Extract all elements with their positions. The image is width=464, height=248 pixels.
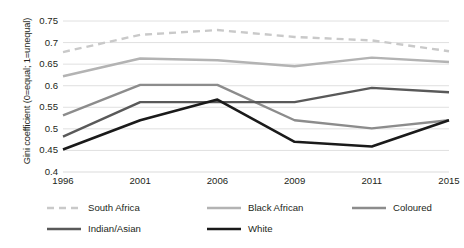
legend-label: White: [248, 224, 273, 234]
x-tick-label: 2006: [187, 176, 247, 186]
chart-legend: South AfricaBlack AfricanColoured Indian…: [47, 198, 447, 242]
series-line-south-africa: [63, 30, 449, 52]
x-tick-label: 1996: [33, 176, 93, 186]
legend-row: South AfricaBlack AfricanColoured: [47, 198, 447, 218]
plot-svg: [63, 21, 449, 172]
series-line-black-african: [63, 58, 449, 77]
legend-item-coloured[interactable]: Coloured: [352, 198, 432, 218]
x-tick-label: 2011: [342, 176, 402, 186]
y-tick-label: 0.6: [2, 81, 58, 91]
legend-item-south-africa[interactable]: South Africa: [47, 198, 140, 218]
series-lines: [63, 30, 449, 150]
legend-item-indian-asian[interactable]: Indian/Asian: [47, 219, 141, 239]
y-tick-label: 0.75: [2, 16, 58, 26]
legend-swatch-icon: [207, 223, 241, 235]
legend-item-white[interactable]: White: [207, 219, 273, 239]
legend-swatch-icon: [207, 202, 241, 214]
legend-label: Black African: [248, 203, 303, 213]
x-tick-label: 2015: [419, 176, 464, 186]
legend-label: South Africa: [88, 203, 140, 213]
y-tick-label: 0.5: [2, 124, 58, 134]
legend-swatch-icon: [352, 202, 386, 214]
y-tick-label: 0.45: [2, 145, 58, 155]
legend-row: Indian/AsianWhite: [47, 219, 447, 239]
series-line-indian-asian: [63, 88, 449, 137]
y-tick-label: 0.55: [2, 102, 58, 112]
x-tick-label: 2001: [110, 176, 170, 186]
legend-label: Indian/Asian: [88, 224, 141, 234]
y-tick-label: 0.65: [2, 59, 58, 69]
plot-area: [63, 21, 449, 172]
legend-swatch-icon: [47, 223, 81, 235]
legend-swatch-icon: [47, 202, 81, 214]
y-tick-label: 0.7: [2, 38, 58, 48]
legend-label: Coloured: [393, 203, 432, 213]
x-tick-label: 2009: [265, 176, 325, 186]
legend-item-black-african[interactable]: Black African: [207, 198, 303, 218]
x-axis-tick-labels: 199620012006200920112015: [63, 176, 449, 190]
